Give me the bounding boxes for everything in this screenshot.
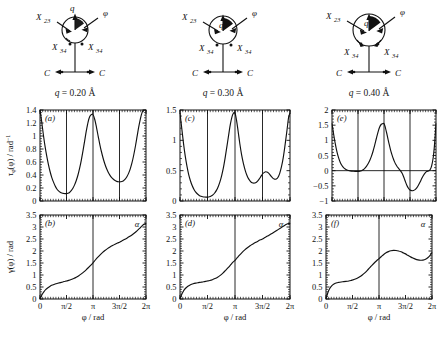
x-tick-label: π [377,302,382,311]
y-tick-label: 2.5 [166,235,176,244]
q-value-caption-3: q = 0.40 Å [294,88,442,98]
alpha-annotation: α [279,219,284,229]
c-right-label: C [247,68,254,78]
x-tick-label: π/2 [61,302,72,311]
y-tick-label: 2 [324,106,328,115]
q-arrow-label: q [70,3,75,13]
y-tick-label: 0.6 [26,158,36,167]
y-tick-label: 3.5 [312,211,322,220]
panel-identifier: (c) [185,113,195,123]
y-tick-label: 1 [324,136,328,145]
x-tick-label: 3π/2 [398,302,413,311]
x23-label: X [325,11,332,21]
panel-identifier: (a) [45,113,55,123]
x23-label: X [35,12,42,22]
x34-left-label: X [343,47,350,57]
x34-right-label: X [87,42,94,52]
y-tick-label: 0 [318,295,322,304]
y-tick-label: 0 [172,197,176,206]
y-tick-label: 2.5 [26,235,36,244]
x-axis-title: φ / rad [82,312,105,322]
y-tick-label: 0.5 [26,283,36,292]
x34-left-sub: 34 [59,47,67,54]
y-tick-label: 1.4 [26,106,37,115]
y-tick-label: 1.5 [312,259,322,268]
y-tick-label: 0.4 [26,171,37,180]
figure-column-1: X 23 X 34 X 34 q φ C C q = 0.20 Å 00.20.… [0,0,150,343]
y-tick-label: 1.2 [26,119,36,128]
y-tick-label: 3 [318,223,322,232]
x-tick-label: π [233,302,238,311]
molecular-schematic-2: X 23 X 34 X 34 q φ C C q = 0.30 Å [148,0,298,104]
y-axis-title: τφ(φ) / rad−1 [5,135,16,177]
y-tick-label: 0.2 [26,184,36,193]
y-tick-label: 2 [318,247,322,256]
x-tick-label: 0 [38,302,42,311]
x23-label: X [181,12,188,22]
c-right-label: C [395,68,402,78]
y-tick-label: 2.5 [312,235,322,244]
phi-label: φ [252,8,257,18]
y-tick-label: 0 [32,197,36,206]
phi-label: φ [103,8,108,18]
y-tick-label: 1 [172,271,176,280]
q-value-caption-2: q = 0.30 Å [148,88,298,98]
y-tick-label: 0 [172,295,176,304]
x-tick-label: 0 [324,302,328,311]
plot-panel-b: 00.511.522.533.50π/2π3π/22πφ / rad(b)αγ(… [0,209,150,343]
x-tick-label: 3π/2 [255,302,270,311]
y-tick-label: 0.8 [26,145,36,154]
x23-sub: 23 [334,16,340,23]
alpha-annotation: α [135,219,140,229]
plot-panel-c: 00.511.5(c) [148,104,298,209]
y-tick-label: 0.5 [318,152,328,161]
y-tick-label: −0.5 [313,182,328,191]
x34-right-sub: 34 [244,48,252,55]
y-tick-label: 2 [32,247,36,256]
y-tick-label: 1 [318,271,322,280]
x-tick-label: π [91,302,96,311]
y-tick-label: 3.5 [166,211,176,220]
y-tick-label: 0.5 [312,283,322,292]
y-tick-label: 1 [32,271,36,280]
y-tick-label: 2 [172,247,176,256]
x34-right-sub: 34 [95,47,103,54]
x-tick-label: 3π/2 [112,302,127,311]
x34-right-label: X [383,47,390,57]
figure-column-2: X 23 X 34 X 34 q φ C C q = 0.30 Å 00.511… [148,0,298,343]
plot-panel-d: 00.511.522.533.50π/2π3π/22πφ / rad(d)α [148,209,298,343]
x23-sub: 23 [190,17,196,24]
panel-identifier: (e) [337,113,347,123]
y-tick-label: 3.5 [26,211,36,220]
x-tick-label: 0 [178,302,182,311]
y-tick-label: 1.5 [26,259,36,268]
y-tick-label: 1.5 [166,106,176,115]
y-tick-label: 3 [32,223,36,232]
x34-left-sub: 34 [351,52,359,59]
q-value-caption-1: q = 0.20 Å [0,88,150,98]
x-tick-label: π/2 [347,302,358,311]
x34-left-label: X [198,43,205,53]
y-tick-label: −1 [320,197,329,206]
c-left-label: C [192,68,199,78]
y-tick-label: 1 [172,136,176,145]
x-axis-title: φ / rad [224,312,247,322]
plot-panel-a: 00.20.40.60.811.21.4(a)τφ(φ) / rad−1 [0,104,150,209]
y-tick-label: 0.5 [166,167,176,176]
panel-identifier: (d) [185,218,195,228]
figure-column-3: X 23 X 34 X 34 q φ C C q = 0.40 Å −1−0.5… [294,0,442,343]
panel-identifier: (b) [45,218,55,228]
plot-panel-f: 00.511.522.533.50π/2π3π/22πφ / rad(f)α [294,209,442,343]
y-tick-label: 1.5 [166,259,176,268]
c-left-label: C [44,68,51,78]
y-tick-label: 0.5 [166,283,176,292]
q-arrow-label: q [364,18,369,28]
figure-root: X 23 X 34 X 34 q φ C C q = 0.20 Å 00.20.… [0,0,442,343]
phi-label: φ [400,7,405,17]
y-tick-label: 3 [172,223,176,232]
x34-left-label: X [51,42,58,52]
x23-sub: 23 [44,17,50,24]
y-tick-label: 1 [32,132,36,141]
x-axis-title: φ / rad [368,312,391,322]
x34-right-label: X [236,43,243,53]
